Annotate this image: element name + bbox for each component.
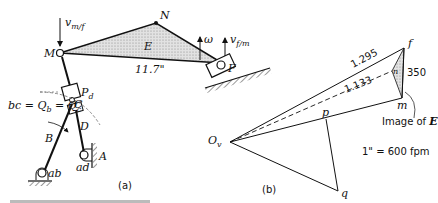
point-m-label: M bbox=[43, 47, 56, 60]
point-p-label: p bbox=[322, 106, 329, 119]
velocity-polygon: Ov f n m p q 1.295 1.133 350 Image of E … bbox=[208, 37, 438, 200]
pole-equation-label: bc = Qb = Qc bbox=[8, 99, 82, 114]
velocity-diagram-figure: M N E F 11.7" ω vm/f vf/m Pd C bc = Qb =… bbox=[0, 0, 438, 203]
omega-label: ω bbox=[204, 33, 213, 46]
link-d-label: D bbox=[79, 120, 89, 133]
scale-label: 1" = 600 fpm bbox=[362, 146, 430, 157]
figure-b-caption: (b) bbox=[262, 184, 276, 195]
point-n-label: N bbox=[159, 9, 170, 22]
figure-a-caption: (a) bbox=[118, 180, 132, 191]
link-e-label: E bbox=[143, 40, 152, 53]
link-b-label: B bbox=[44, 132, 53, 145]
point-a-label: A bbox=[98, 150, 107, 163]
figure-caption-clipped bbox=[10, 200, 150, 203]
mechanism-diagram: M N E F 11.7" ω vm/f vf/m Pd C bc = Qb =… bbox=[8, 9, 272, 191]
v-mf-label: vm/f bbox=[65, 16, 87, 31]
point-f-label: F bbox=[227, 62, 236, 75]
origin-label: Ov bbox=[208, 134, 222, 149]
pivot-ab-label: ab bbox=[48, 167, 62, 180]
v-fm-label: vf/m bbox=[230, 33, 250, 48]
point-n-label: n bbox=[393, 67, 398, 76]
pivot-ad-label: ad bbox=[76, 161, 90, 174]
point-f-label: f bbox=[407, 37, 414, 50]
dimension-label: 11.7" bbox=[135, 63, 165, 76]
point-q-label: q bbox=[341, 187, 348, 200]
point-m-label: m bbox=[397, 99, 407, 112]
length-fm-label: 350 bbox=[407, 67, 426, 78]
image-of-e-label: Image of E bbox=[382, 115, 438, 128]
length-on-label: 1.133 bbox=[343, 74, 374, 95]
length-of-label: 1.295 bbox=[349, 47, 379, 70]
